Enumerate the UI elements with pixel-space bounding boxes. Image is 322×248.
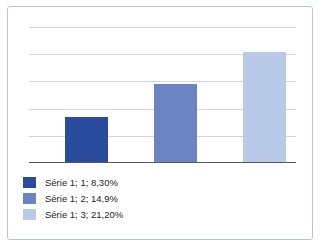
legend-label-3: Série 1; 3; 21,20% xyxy=(45,209,123,220)
legend-swatch-icon-1 xyxy=(23,177,36,188)
chart-legend: Série 1; 1; 8,30%Série 1; 2; 14,9%Série … xyxy=(23,174,293,222)
legend-label-2: Série 1; 2; 14,9% xyxy=(45,193,118,204)
legend-item-3[interactable]: Série 1; 3; 21,20% xyxy=(23,206,293,222)
legend-swatch-icon-2 xyxy=(23,193,36,204)
chart-card: Série 1; 1; 8,30%Série 1; 2; 14,9%Série … xyxy=(7,6,313,240)
bars-layer xyxy=(29,20,296,163)
bar-2[interactable] xyxy=(154,84,197,162)
bar-3[interactable] xyxy=(243,52,286,162)
x-axis-line xyxy=(29,162,296,163)
legend-item-1[interactable]: Série 1; 1; 8,30% xyxy=(23,174,293,190)
legend-item-2[interactable]: Série 1; 2; 14,9% xyxy=(23,190,293,206)
legend-swatch-icon-3 xyxy=(23,209,36,220)
chart-plot-area xyxy=(29,20,296,163)
legend-label-1: Série 1; 1; 8,30% xyxy=(45,177,118,188)
bar-1[interactable] xyxy=(65,117,108,162)
